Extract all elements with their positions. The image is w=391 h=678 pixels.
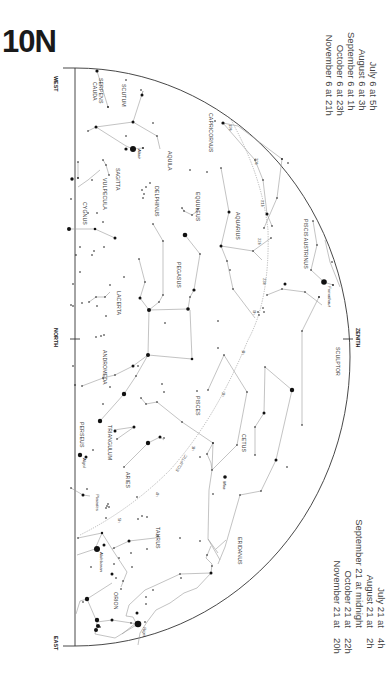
star-deneb [67, 227, 71, 231]
label-cygnus: CYGNUS [82, 202, 88, 225]
label-vulpecula: VULPECULA [102, 178, 108, 210]
label-taurus: TAURUS [155, 527, 161, 549]
time-hour: 22h [343, 638, 354, 654]
time-hour: 3h [357, 100, 368, 111]
star-algol [78, 453, 82, 457]
ecliptic-tick: 1h [241, 350, 246, 355]
time-hour: 5h [368, 100, 379, 111]
label-capricornus: CAPRICORNUS [208, 113, 214, 153]
label-sculptor: SCULPTOR [335, 347, 341, 376]
label-lacerta: LACERTA [116, 291, 122, 316]
label-aquila: AQUILA [167, 151, 173, 171]
label-orion: ORION [113, 592, 119, 610]
label-scutum: SCUTUM [121, 84, 127, 107]
label-aquarius: AQUARIUS [235, 212, 241, 240]
label-cetus: CETUS [241, 434, 247, 453]
star-fomalhaut [321, 279, 327, 285]
east-label: EAST [53, 636, 59, 651]
time-date: July 21 at [376, 587, 387, 628]
star-altair-left [124, 147, 127, 150]
label-altair: Altair [137, 148, 142, 160]
label-piscis-austrinus: PISCIS AUSTRINUS [303, 219, 309, 269]
time-hour: 23h [335, 100, 346, 116]
constellation-lines [69, 71, 340, 645]
label-fomalhaut: Fomalhaut [327, 286, 332, 308]
label-sagitta: SAGITTA [115, 168, 121, 191]
star-altair [130, 146, 136, 152]
label-pisces: PISCES [195, 396, 201, 416]
time-hour: 4h [376, 638, 387, 649]
time-hour: 20h [332, 638, 343, 654]
time-date: August 6 at [357, 49, 368, 97]
west-label: WEST [53, 76, 59, 92]
label-pegasus: PEGASUS [176, 262, 182, 288]
ecliptic-tick: 0h [252, 310, 257, 315]
label-aldebaran: Aldebaran [99, 551, 104, 573]
time-date: September 21 at midnight [354, 519, 365, 628]
time-date: July 6 at [368, 62, 379, 98]
time-hour: 21h [324, 100, 335, 116]
label-algol: Algol [82, 457, 87, 469]
time-date: August 21 at [365, 575, 376, 629]
time-date: November 6 at [324, 35, 335, 98]
time-date: October 21 at [343, 570, 354, 628]
star-betelgeuse [85, 597, 89, 601]
label-mira: Mira [222, 481, 227, 490]
ecliptic-tick: 3h [191, 446, 196, 451]
viewing-times-top: July 6 at 5h August 6 at 3h September 6 … [324, 32, 379, 116]
star-rigel [135, 621, 142, 628]
time-date: September 6 at [346, 32, 357, 97]
label-delphinus: DELPHINUS [154, 186, 160, 217]
label-triangulum: TRIANGULUM [107, 425, 113, 460]
label-cauda: CAUDA [92, 82, 98, 101]
time-date: November 21 at [332, 560, 343, 628]
label-eridanus: ERIDANUS [237, 537, 243, 565]
ecliptic-tick: 23h [262, 278, 267, 286]
ecliptic-tick: 22h [257, 238, 262, 246]
ecliptic-tick: 21h [260, 200, 265, 208]
ecliptic-tick: 2h [221, 392, 226, 397]
label-equuleus: EQUULEUS [195, 192, 201, 222]
zenith-label: ZENITH [355, 328, 361, 348]
label-pleiades: Pleiades [95, 494, 100, 512]
star-mira [223, 475, 227, 479]
ecliptic-tick: 5h [117, 518, 122, 523]
label-rigel: Rigel [142, 627, 147, 638]
label-andromeda: ANDROMEDA [102, 350, 108, 385]
time-hour: 2h [365, 638, 376, 649]
time-date: October 6 at [335, 45, 346, 98]
star-labels: Altair Fomalhaut Algol Mira Pleiades Ald… [82, 148, 332, 638]
label-perseus: PERSEUS [79, 422, 85, 448]
ecliptic-tick: 4h [155, 492, 160, 497]
north-label: NORTH [53, 328, 59, 347]
time-hour: 1h [346, 100, 357, 111]
viewing-times-bottom: July 21 at 4h August 21 at 2h September … [332, 519, 387, 654]
label-aries: ARIES [125, 472, 131, 489]
ecliptic-label: ECLIPTIC [175, 454, 189, 473]
star-map: WEST NORTH EAST ZENITH 19h 20h 21h 22h 2… [0, 0, 391, 678]
